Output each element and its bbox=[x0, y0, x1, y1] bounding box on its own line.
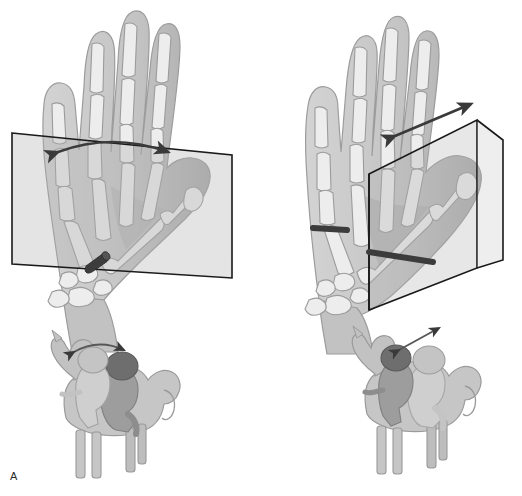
panel-a-illustration bbox=[0, 0, 261, 496]
panel-a: A bbox=[0, 0, 261, 496]
helmet-light-icon bbox=[413, 346, 445, 374]
palm-plane-a bbox=[12, 133, 232, 278]
panel-b: B bbox=[261, 0, 522, 496]
mnemonic-horse-b bbox=[352, 326, 481, 474]
helmet-dark-icon bbox=[106, 352, 138, 380]
panel-label-a: A bbox=[10, 470, 18, 482]
panel-b-illustration bbox=[261, 0, 522, 496]
anatomy-figure: A bbox=[0, 0, 522, 496]
helmet-light-icon bbox=[78, 347, 108, 373]
helmet-dark-icon bbox=[381, 345, 411, 371]
